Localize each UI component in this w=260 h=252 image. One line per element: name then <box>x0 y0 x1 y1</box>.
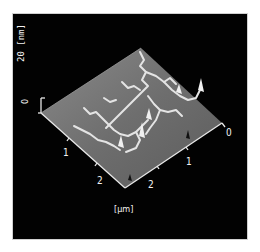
y-tick-1: 1 <box>186 157 192 167</box>
y-tick-0: 0 <box>226 128 232 138</box>
x-tick-2: 2 <box>97 176 103 186</box>
xy-unit-label: [µm] <box>114 204 133 214</box>
surface-plot <box>0 0 260 252</box>
surface-plane <box>41 48 222 188</box>
z-axis-label: 20 [nm] <box>16 24 26 62</box>
y-tick-2: 2 <box>148 180 154 190</box>
x-tick-1: 1 <box>63 148 69 158</box>
z-tick-0: 0 <box>20 99 30 104</box>
